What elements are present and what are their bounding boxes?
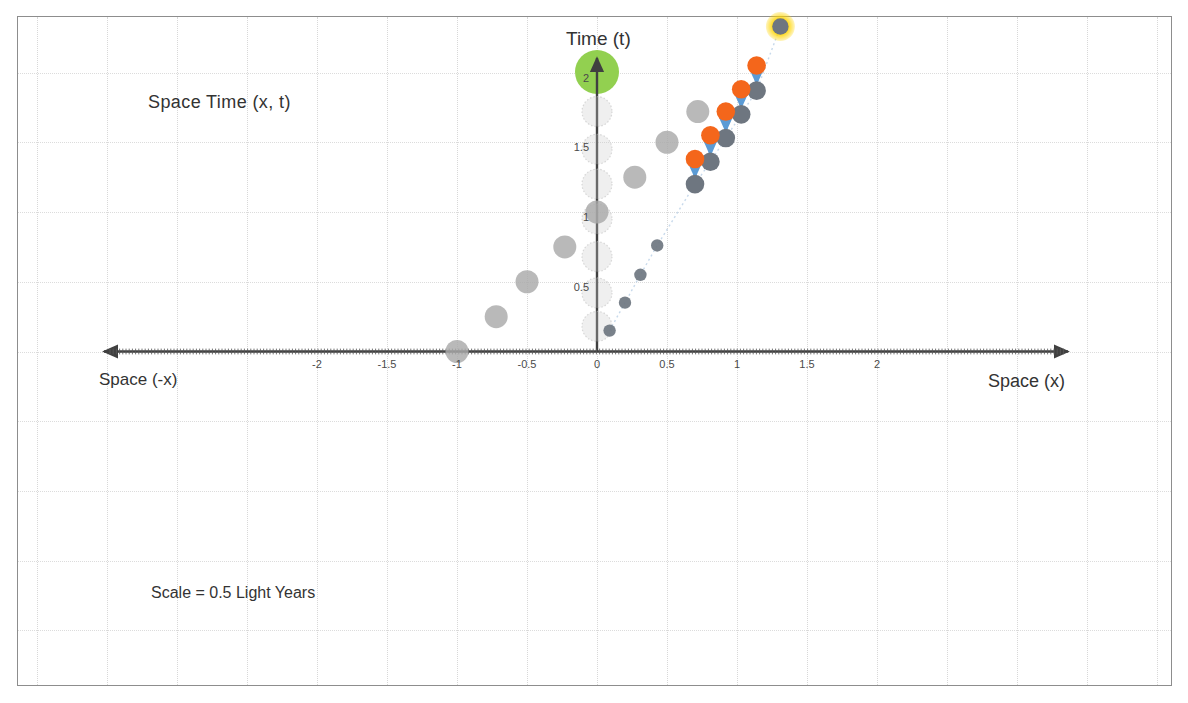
x-axis-label-negative: Space (-x) — [99, 370, 177, 390]
series-right-observer-trail — [603, 239, 663, 336]
svg-text:2: 2 — [874, 358, 880, 370]
svg-text:1.5: 1.5 — [574, 141, 589, 153]
scale-note: Scale = 0.5 Light Years — [151, 584, 315, 602]
svg-text:-0.5: -0.5 — [518, 358, 537, 370]
svg-text:1.5: 1.5 — [799, 358, 814, 370]
highlighted-event-marker — [766, 12, 795, 41]
svg-text:0: 0 — [594, 358, 600, 370]
y-axis-label: Time (t) — [566, 28, 631, 50]
svg-text:-2: -2 — [312, 358, 322, 370]
svg-text:1: 1 — [583, 211, 589, 223]
svg-text:0.5: 0.5 — [659, 358, 674, 370]
svg-text:0.5: 0.5 — [574, 281, 589, 293]
x-axis-label-positive: Space (x) — [988, 371, 1065, 392]
spacetime-diagram-figure: -2-1.5-1-0.500.511.520.511.52 Time (t) S… — [0, 0, 1188, 703]
svg-text:-1.5: -1.5 — [378, 358, 397, 370]
svg-text:-1: -1 — [452, 358, 462, 370]
svg-text:1: 1 — [734, 358, 740, 370]
series-left-ghost-worldline — [446, 100, 710, 363]
svg-text:2: 2 — [583, 72, 589, 84]
diagram-title-annotation: Space Time (x, t) — [148, 92, 291, 113]
series-reception-events — [686, 81, 766, 193]
